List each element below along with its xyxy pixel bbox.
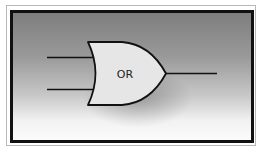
gate-label: OR xyxy=(117,68,134,81)
or-gate-diagram: OR xyxy=(0,0,263,152)
